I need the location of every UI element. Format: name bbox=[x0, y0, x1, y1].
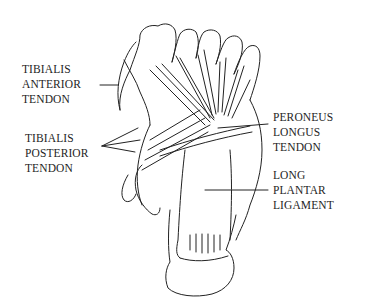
label-tibialis-posterior-tendon: TIBIALIS POSTERIOR TENDON bbox=[25, 131, 89, 176]
label-tibialis-anterior-tendon: TIBIALIS ANTERIOR TENDON bbox=[22, 62, 81, 107]
label-peroneus-longus-tendon: PERONEUS LONGUS TENDON bbox=[273, 110, 333, 155]
anatomy-diagram: TIBIALIS ANTERIOR TENDON TIBIALIS POSTER… bbox=[0, 0, 366, 305]
label-long-plantar-ligament: LONG PLANTAR LIGAMENT bbox=[273, 168, 334, 213]
